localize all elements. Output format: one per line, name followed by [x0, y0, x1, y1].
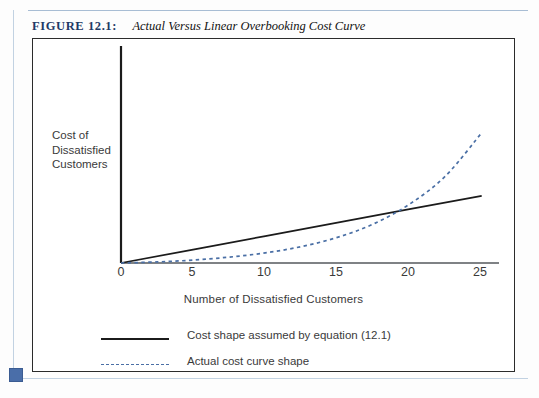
x-tick-label-15: 15	[329, 265, 343, 279]
figure-number-label: FIGURE 12.1:	[32, 19, 117, 33]
y-axis-label-line-3: Customers	[52, 157, 128, 172]
legend-swatch-dashed-line-icon	[101, 364, 169, 365]
page-top-rule	[28, 10, 528, 11]
legend-item-linear: Cost shape assumed by equation (12.1)	[101, 327, 501, 353]
figure-box: Cost of Dissatisfied Customers 0 5 10 15…	[32, 38, 515, 372]
x-tick-label-10: 10	[257, 265, 271, 279]
chart-plot-area: Cost of Dissatisfied Customers 0 5 10 15…	[33, 39, 514, 371]
y-axis-label: Cost of Dissatisfied Customers	[52, 128, 128, 172]
figure-title: Actual Versus Linear Overbooking Cost Cu…	[132, 19, 365, 33]
x-tick-label-0: 0	[118, 265, 125, 279]
figure-caption: FIGURE 12.1: Actual Versus Linear Overbo…	[32, 16, 502, 36]
legend-swatch-solid-line-icon	[101, 338, 169, 340]
series-linear-cost-line	[121, 196, 482, 263]
legend-item-actual: Actual cost curve shape	[101, 353, 501, 379]
page-corner-marker	[9, 368, 23, 382]
x-tick-label-20: 20	[401, 265, 415, 279]
x-tick-label-5: 5	[189, 265, 196, 279]
legend-label-actual: Actual cost curve shape	[187, 355, 309, 367]
series-actual-cost-curve	[121, 133, 482, 263]
page-left-rule	[13, 10, 14, 378]
chart-legend: Cost shape assumed by equation (12.1) Ac…	[101, 327, 501, 379]
legend-label-linear: Cost shape assumed by equation (12.1)	[187, 329, 391, 341]
y-axis-label-line-1: Cost of	[52, 128, 128, 143]
y-axis-label-line-2: Dissatisfied	[52, 143, 128, 158]
x-axis-title: Number of Dissatisfied Customers	[33, 293, 514, 305]
chart-svg	[33, 39, 516, 373]
x-tick-label-25: 25	[473, 265, 487, 279]
